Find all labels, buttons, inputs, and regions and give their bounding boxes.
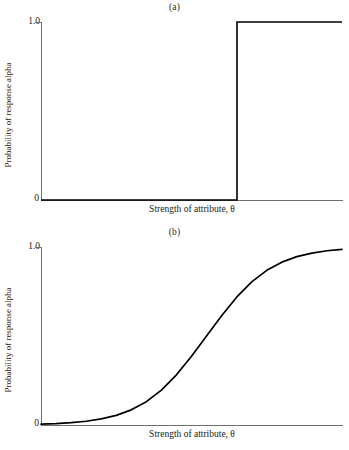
figure-panel-a: (a) Probability of response alpha 1.0 0 …	[0, 0, 349, 225]
panel-b-plot	[0, 225, 349, 450]
panel-a-plot	[0, 0, 349, 225]
panel-b-ogive-curve	[41, 249, 342, 424]
panel-b-x-axis-label: Strength of attribute, θ	[41, 429, 343, 439]
panel-a-x-axis-label: Strength of attribute, θ	[41, 204, 343, 214]
figure-panel-b: (b) Probability of response alpha 1.0 0 …	[0, 225, 349, 450]
panel-a-step-function-curve	[41, 22, 342, 200]
